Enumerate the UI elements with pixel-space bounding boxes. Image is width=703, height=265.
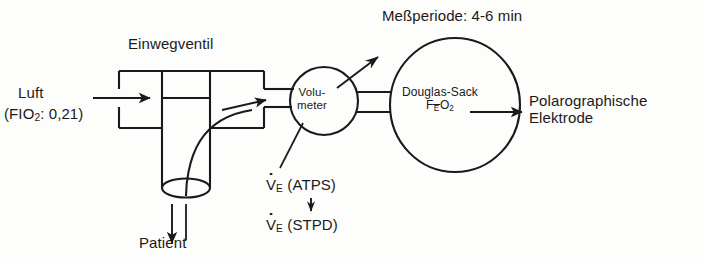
ve-stpd-units: (STPD) (287, 216, 338, 233)
electrode-label-line2: Elektrode (529, 110, 647, 127)
ve-dot-symbol-stpd: V (266, 217, 276, 234)
volumeter-label: Volu- meter (297, 86, 327, 112)
feo2-o: O (440, 98, 449, 112)
ve-dot-symbol-atps: V (266, 177, 276, 194)
air-label: Luft (18, 85, 43, 102)
douglas-bag-feo2: FEO2 (402, 99, 478, 113)
polarographic-electrode-label: Polarographische Elektrode (529, 93, 647, 127)
volumeter-leader-line (280, 123, 303, 168)
diagram-svg (0, 0, 703, 265)
ve-subscript-atps: E (276, 183, 283, 194)
volumeter-label-line1: Volu- (297, 86, 327, 99)
expired-gas-curve (186, 110, 252, 196)
ve-stpd-label: VE (STPD) (266, 217, 338, 235)
one-way-valve-label: Einwegventil (128, 36, 213, 53)
electrode-label-line1: Polarographische (529, 93, 647, 110)
expired-gas-arrow (222, 100, 266, 110)
fio2-prefix: (FIO (4, 105, 34, 122)
volumeter-label-line2: meter (297, 99, 327, 112)
fio2-suffix: : 0,21) (40, 105, 83, 122)
patient-label: Patient (139, 235, 186, 252)
ve-subscript-stpd: E (276, 223, 283, 234)
air-fio2-label: (FIO2: 0,21) (4, 106, 83, 124)
figure-canvas: Meßperiode: 4-6 min Einwegventil Luft (F… (0, 0, 703, 265)
ve-atps-units: (ATPS) (287, 176, 336, 193)
feo2-o-subscript: 2 (449, 104, 454, 113)
ve-atps-label: VE (ATPS) (266, 177, 336, 195)
douglas-bag-label: Douglas-Sack FEO2 (402, 86, 478, 113)
measurement-period-label: Meßperiode: 4-6 min (382, 8, 522, 25)
douglas-bag-name: Douglas-Sack (402, 86, 478, 99)
